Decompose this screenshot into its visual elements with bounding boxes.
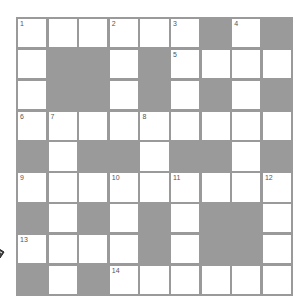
block-cell xyxy=(140,235,168,263)
clue-number: 9 xyxy=(20,174,24,182)
entry-cell[interactable]: 11 xyxy=(171,173,199,201)
entry-cell[interactable] xyxy=(110,112,138,140)
clue-number: 8 xyxy=(142,113,146,121)
entry-cell[interactable] xyxy=(171,235,199,263)
entry-cell[interactable] xyxy=(263,50,291,78)
clue-number: 14 xyxy=(112,267,120,275)
clue-number: 1 xyxy=(20,20,24,28)
entry-cell[interactable] xyxy=(49,173,77,201)
block-cell xyxy=(202,19,230,47)
entry-cell[interactable] xyxy=(140,19,168,47)
entry-cell[interactable] xyxy=(49,266,77,294)
entry-cell[interactable] xyxy=(202,112,230,140)
entry-cell[interactable] xyxy=(140,266,168,294)
clue-number: 7 xyxy=(51,113,55,121)
block-cell xyxy=(263,19,291,47)
entry-cell[interactable] xyxy=(49,235,77,263)
entry-cell[interactable] xyxy=(49,204,77,232)
entry-cell[interactable]: 10 xyxy=(110,173,138,201)
entry-cell[interactable]: 12 xyxy=(263,173,291,201)
entry-cell[interactable]: 6 xyxy=(18,112,46,140)
block-cell xyxy=(171,142,199,170)
entry-cell[interactable]: 1 xyxy=(18,19,46,47)
entry-cell[interactable]: 7 xyxy=(49,112,77,140)
block-cell xyxy=(140,81,168,109)
entry-cell[interactable] xyxy=(110,81,138,109)
block-cell xyxy=(79,266,107,294)
block-cell xyxy=(202,142,230,170)
entry-cell[interactable] xyxy=(79,173,107,201)
entry-cell[interactable] xyxy=(79,112,107,140)
clue-number: 13 xyxy=(20,236,28,244)
block-cell xyxy=(263,81,291,109)
entry-cell[interactable] xyxy=(232,112,260,140)
block-cell xyxy=(232,204,260,232)
block-cell xyxy=(18,204,46,232)
entry-cell[interactable] xyxy=(263,235,291,263)
pencil-cursor-icon xyxy=(0,244,8,260)
clue-number: 2 xyxy=(112,20,116,28)
block-cell xyxy=(202,235,230,263)
entry-cell[interactable] xyxy=(202,50,230,78)
block-cell xyxy=(263,142,291,170)
entry-cell[interactable] xyxy=(49,142,77,170)
entry-cell[interactable]: 4 xyxy=(232,19,260,47)
block-cell xyxy=(140,204,168,232)
entry-cell[interactable] xyxy=(232,266,260,294)
entry-cell[interactable] xyxy=(140,173,168,201)
entry-cell[interactable]: 5 xyxy=(171,50,199,78)
entry-cell[interactable] xyxy=(171,112,199,140)
clue-number: 12 xyxy=(265,174,273,182)
clue-number: 11 xyxy=(173,174,180,182)
entry-cell[interactable] xyxy=(171,266,199,294)
entry-cell[interactable] xyxy=(171,204,199,232)
block-cell xyxy=(110,142,138,170)
entry-cell[interactable] xyxy=(263,266,291,294)
clue-number: 4 xyxy=(234,20,238,28)
block-cell xyxy=(79,142,107,170)
entry-cell[interactable]: 8 xyxy=(140,112,168,140)
block-cell xyxy=(49,50,77,78)
block-cell xyxy=(202,204,230,232)
entry-cell[interactable] xyxy=(232,142,260,170)
clue-number: 6 xyxy=(20,113,24,121)
clue-number: 10 xyxy=(112,174,120,182)
entry-cell[interactable] xyxy=(18,81,46,109)
entry-cell[interactable] xyxy=(202,266,230,294)
block-cell xyxy=(18,266,46,294)
block-cell xyxy=(140,50,168,78)
entry-cell[interactable] xyxy=(263,204,291,232)
entry-cell[interactable] xyxy=(79,235,107,263)
entry-cell[interactable] xyxy=(232,81,260,109)
entry-cell[interactable] xyxy=(49,19,77,47)
crossword-grid: 1234567891011121314 xyxy=(16,17,293,296)
entry-cell[interactable]: 2 xyxy=(110,19,138,47)
entry-cell[interactable] xyxy=(263,112,291,140)
block-cell xyxy=(202,81,230,109)
block-cell xyxy=(232,235,260,263)
entry-cell[interactable]: 14 xyxy=(110,266,138,294)
entry-cell[interactable] xyxy=(79,19,107,47)
entry-cell[interactable] xyxy=(110,50,138,78)
entry-cell[interactable] xyxy=(202,173,230,201)
clue-number: 3 xyxy=(173,20,177,28)
entry-cell[interactable] xyxy=(232,173,260,201)
block-cell xyxy=(79,204,107,232)
entry-cell[interactable]: 9 xyxy=(18,173,46,201)
block-cell xyxy=(18,142,46,170)
entry-cell[interactable] xyxy=(232,50,260,78)
entry-cell[interactable] xyxy=(110,204,138,232)
entry-cell[interactable] xyxy=(140,142,168,170)
entry-cell[interactable] xyxy=(171,81,199,109)
clue-number: 5 xyxy=(173,51,177,59)
entry-cell[interactable]: 13 xyxy=(18,235,46,263)
entry-cell[interactable] xyxy=(110,235,138,263)
block-cell xyxy=(49,81,77,109)
block-cell xyxy=(79,81,107,109)
entry-cell[interactable]: 3 xyxy=(171,19,199,47)
entry-cell[interactable] xyxy=(18,50,46,78)
block-cell xyxy=(79,50,107,78)
